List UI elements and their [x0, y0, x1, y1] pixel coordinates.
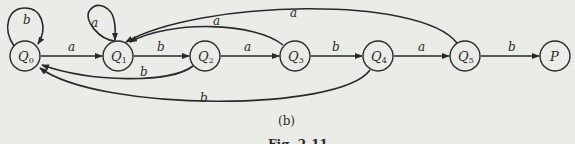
- node-q4-base: Q: [371, 49, 382, 64]
- node-q5: Q5: [450, 41, 480, 71]
- svg-text:Q3: Q3: [288, 49, 304, 65]
- node-q1-base: Q: [111, 49, 122, 64]
- figure-caption: Fig. 2-11: [268, 138, 328, 144]
- label-q0-q1: a: [68, 40, 75, 54]
- node-p-base: P: [549, 49, 559, 64]
- node-q3-base: Q: [288, 49, 299, 64]
- node-q0: Q0: [10, 41, 40, 71]
- node-q5-base: Q: [458, 49, 469, 64]
- svg-text:Q2: Q2: [198, 49, 214, 65]
- node-q2-sub: 2: [209, 56, 214, 65]
- label-q4-q0: b: [200, 91, 208, 105]
- node-q4-sub: 4: [382, 56, 387, 65]
- svg-text:P: P: [549, 49, 559, 64]
- node-p: P: [540, 41, 570, 71]
- label-q3-q4: b: [332, 40, 340, 54]
- label-q2-q3: a: [244, 40, 251, 54]
- label-q2-q0: b: [140, 65, 148, 79]
- svg-text:Q0: Q0: [18, 49, 34, 65]
- svg-text:Q4: Q4: [371, 49, 387, 65]
- node-q3-sub: 3: [299, 56, 304, 65]
- edge-q3-q1: [130, 27, 283, 45]
- label-q0-loop: b: [23, 13, 31, 27]
- automaton-diagram: b a a b b a a b b a a b Q0 Q1 Q2 Q3: [0, 0, 575, 144]
- node-q0-sub: 0: [29, 56, 34, 65]
- label-q1-q2: b: [157, 40, 165, 54]
- node-q2-base: Q: [198, 49, 209, 64]
- node-q2: Q2: [190, 41, 220, 71]
- node-q1: Q1: [103, 41, 133, 71]
- node-q0-base: Q: [18, 49, 29, 64]
- label-q1-loop: a: [91, 16, 98, 30]
- label-q5-p: b: [508, 40, 516, 54]
- svg-text:Q5: Q5: [458, 49, 474, 65]
- label-q4-q5: a: [418, 40, 425, 54]
- node-q5-sub: 5: [469, 56, 474, 65]
- subfigure-caption: (b): [278, 114, 295, 128]
- node-q1-sub: 1: [122, 56, 127, 65]
- svg-text:Q1: Q1: [111, 49, 127, 65]
- node-q4: Q4: [363, 41, 393, 71]
- label-q5-q1: a: [290, 6, 297, 20]
- edge-q2-q0: [42, 65, 193, 79]
- node-q3: Q3: [280, 41, 310, 71]
